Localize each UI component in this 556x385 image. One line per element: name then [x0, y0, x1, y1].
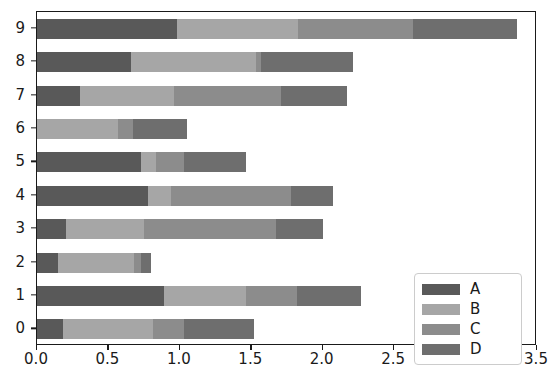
legend-label-c: C: [470, 322, 480, 337]
x-tick-label: 1.0: [167, 352, 191, 367]
bar-segment-b: [131, 52, 255, 72]
bar-segment-c: [246, 286, 297, 306]
bar-segment-d: [184, 152, 245, 172]
bar-segment-b: [141, 152, 155, 172]
legend-label-b: B: [470, 302, 480, 317]
x-tick-label: 2.5: [381, 352, 405, 367]
x-tick-label: 0.5: [95, 352, 119, 367]
legend-swatch-b: [422, 304, 460, 315]
stacked-bar-chart: 0123456789 0.00.51.01.52.02.53.03.5 ABCD: [0, 0, 556, 385]
bar-segment-d: [291, 186, 332, 206]
x-tick-label: 3.5: [524, 352, 548, 367]
bar-segment-a: [37, 19, 177, 39]
bar-segment-d: [261, 52, 352, 72]
x-tick-label: 1.5: [238, 352, 262, 367]
legend-entry-d: D: [422, 339, 513, 359]
bar-segment-d: [133, 119, 187, 139]
y-tick-label: 2: [15, 254, 25, 269]
y-tick-label: 0: [15, 321, 25, 336]
bar-segment-c: [144, 219, 275, 239]
y-tick-label: 6: [15, 120, 25, 135]
bar-segment-d: [141, 253, 151, 273]
y-tick-label: 3: [15, 221, 25, 236]
bar-segment-a: [37, 253, 58, 273]
bar-segment-c: [134, 253, 141, 273]
bar-segment-b: [58, 253, 134, 273]
bar-segment-a: [37, 86, 80, 106]
legend-label-a: A: [470, 282, 480, 297]
bar-segment-a: [37, 219, 66, 239]
bar-segment-c: [118, 119, 132, 139]
bar-segment-c: [174, 86, 281, 106]
bar-segment-a: [37, 286, 164, 306]
y-tick-label: 1: [15, 287, 25, 302]
bar-segment-b: [164, 286, 245, 306]
y-tick-label: 9: [15, 20, 25, 35]
bar-segment-c: [153, 319, 184, 339]
bar-segment-a: [37, 152, 141, 172]
bar-segment-b: [66, 219, 145, 239]
legend-swatch-d: [422, 344, 460, 355]
bar-segment-d: [297, 286, 361, 306]
bar-segment-c: [171, 186, 291, 206]
legend-entry-c: C: [422, 319, 513, 339]
y-tick-label: 4: [15, 187, 25, 202]
legend-entry-b: B: [422, 299, 513, 319]
bar-segment-c: [298, 19, 412, 39]
bar-segment-d: [281, 86, 347, 106]
bar-segment-b: [148, 186, 171, 206]
legend-entry-a: A: [422, 279, 513, 299]
bar-segment-c: [156, 152, 185, 172]
bar-segment-b: [63, 319, 153, 339]
y-tick-label: 8: [15, 54, 25, 69]
bar-segment-a: [37, 52, 131, 72]
x-tick-label: 0.0: [24, 352, 48, 367]
bar-segment-d: [413, 19, 517, 39]
bar-segment-d: [276, 219, 323, 239]
y-axis: 0123456789: [0, 11, 36, 345]
legend-label-d: D: [470, 342, 482, 357]
y-tick-label: 5: [15, 154, 25, 169]
x-tick-label: 2.0: [310, 352, 334, 367]
bar-segment-a: [37, 319, 63, 339]
legend-swatch-a: [422, 284, 460, 295]
legend-swatch-c: [422, 324, 460, 335]
bar-segment-b: [177, 19, 298, 39]
bar-segment-d: [184, 319, 254, 339]
bar-segment-a: [37, 186, 148, 206]
y-tick-label: 7: [15, 87, 25, 102]
bar-segment-b: [80, 86, 174, 106]
chart-legend: ABCD: [414, 273, 522, 365]
bar-segment-b: [37, 119, 118, 139]
